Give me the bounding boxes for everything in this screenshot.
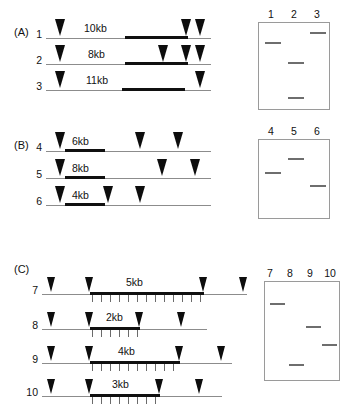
cut-site-arrow (55, 71, 65, 88)
scale-tick (137, 397, 138, 404)
scale-tick (155, 397, 156, 404)
map-row-8: 8 2kb (0, 304, 260, 334)
map-row-5-size-label: 8kb (72, 162, 89, 174)
cut-site-arrow (55, 132, 65, 149)
map-row-3-size-label: 11kb (86, 74, 108, 86)
panel-c: (C) 7 5kb 8 (0, 255, 346, 411)
scale-tick (137, 330, 138, 337)
map-row-5-probe (65, 176, 105, 179)
cut-site-arrow (85, 346, 93, 361)
cut-site-arrow (85, 277, 93, 292)
map-row-3-probe (122, 88, 185, 91)
map-row-8-number: 8 (26, 319, 38, 331)
scale-tick (155, 364, 156, 371)
scale-tick (173, 295, 174, 302)
map-row-2-probe (125, 62, 188, 65)
scale-tick (137, 295, 138, 302)
panel-a: (A) 1 10kb 2 8kb 3 11kb (0, 0, 346, 115)
map-row-3-number: 3 (32, 80, 42, 92)
map-row-2-size-label: 8kb (88, 48, 105, 60)
gel-c-lane-label-10: 10 (322, 267, 338, 279)
map-row-4-number: 4 (32, 141, 42, 153)
scale-tick (92, 295, 93, 302)
cut-site-arrow (47, 312, 55, 327)
map-row-7: 7 5kb (0, 269, 260, 299)
cut-site-arrow (217, 346, 225, 361)
scale-tick (110, 397, 111, 404)
scale-tick (173, 364, 174, 371)
scale-tick (110, 364, 111, 371)
scale-tick (155, 295, 156, 302)
gel-band (288, 97, 304, 99)
cut-site-arrow (181, 19, 191, 36)
gel-a-lane-label-1: 1 (265, 8, 277, 20)
scale-tick (101, 364, 102, 371)
scale-tick (101, 397, 102, 404)
gel-band (310, 32, 326, 34)
restriction-map-figure: (A) 1 10kb 2 8kb 3 11kb (0, 0, 346, 411)
gel-band (289, 364, 304, 366)
gel-band (270, 303, 285, 305)
map-row-1-probe (125, 36, 188, 39)
scale-tick (182, 295, 183, 302)
scale-tick (101, 330, 102, 337)
map-row-3: 3 11kb (0, 66, 240, 96)
scale-tick (110, 295, 111, 302)
scale-tick (164, 364, 165, 371)
gel-c-lane-label-8: 8 (284, 267, 296, 279)
panel-b: (B) 4 6kb 5 8kb 6 4kb (0, 118, 346, 223)
scale-tick (128, 295, 129, 302)
cut-site-arrow (47, 277, 55, 292)
cut-site-arrow (47, 346, 55, 361)
cut-site-arrow (55, 45, 65, 62)
gel-band (322, 344, 337, 346)
cut-site-arrow (85, 312, 93, 327)
scale-tick (128, 397, 129, 404)
scale-tick (164, 295, 165, 302)
gel-c-lane-label-9: 9 (304, 267, 316, 279)
scale-tick (119, 397, 120, 404)
map-row-10-number: 10 (20, 386, 38, 398)
gel-c-lane-label-7: 7 (264, 267, 276, 279)
gel-band (306, 326, 321, 328)
map-row-4-probe (65, 149, 105, 152)
cut-site-arrow (135, 186, 145, 203)
map-row-5: 5 8kb (0, 154, 240, 184)
cut-site-arrow (199, 277, 207, 292)
map-row-6-probe (65, 203, 105, 206)
cut-site-arrow (195, 71, 205, 88)
gel-band (288, 62, 304, 64)
map-row-7-probe (90, 292, 204, 295)
map-row-4-size-label: 6kb (72, 135, 89, 147)
gel-band (265, 172, 281, 174)
cut-site-arrow (47, 379, 55, 394)
map-row-6-number: 6 (32, 195, 42, 207)
gel-band (265, 42, 281, 44)
map-row-2-number: 2 (32, 54, 42, 66)
scale-tick (101, 295, 102, 302)
gel-b-lane-label-5: 5 (288, 125, 300, 137)
cut-site-arrow (190, 159, 200, 176)
cut-site-arrow (239, 277, 247, 292)
cut-site-arrow (175, 346, 183, 361)
gel-c (264, 281, 340, 381)
scale-tick (191, 295, 192, 302)
gel-a-lane-label-3: 3 (311, 8, 323, 20)
gel-band (310, 185, 326, 187)
scale-tick (110, 330, 111, 337)
cut-site-arrow (158, 45, 168, 62)
cut-site-arrow (173, 132, 183, 149)
map-row-4: 4 6kb (0, 127, 240, 157)
cut-site-arrow (103, 186, 113, 203)
scale-tick (92, 397, 93, 404)
gel-a (258, 22, 330, 110)
cut-site-arrow (177, 312, 185, 327)
scale-tick (128, 330, 129, 337)
cut-site-arrow (135, 132, 145, 149)
map-row-1-size-label: 10kb (84, 22, 107, 34)
gel-b-lane-label-6: 6 (311, 125, 323, 137)
map-row-1-number: 1 (32, 28, 42, 40)
scale-tick (146, 295, 147, 302)
scale-tick (119, 364, 120, 371)
map-row-5-number: 5 (32, 168, 42, 180)
